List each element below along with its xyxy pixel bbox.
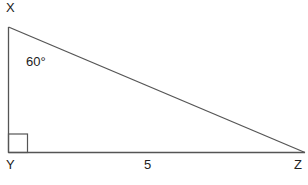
right-angle-marker bbox=[9, 134, 28, 153]
vertex-label-x: X bbox=[6, 1, 15, 14]
vertex-label-y: Y bbox=[6, 158, 15, 171]
triangle-diagram bbox=[0, 0, 308, 185]
vertex-label-z: Z bbox=[294, 158, 302, 171]
side-label-yz: 5 bbox=[144, 158, 151, 171]
angle-label: 60° bbox=[26, 55, 46, 68]
side-xz bbox=[9, 27, 306, 153]
